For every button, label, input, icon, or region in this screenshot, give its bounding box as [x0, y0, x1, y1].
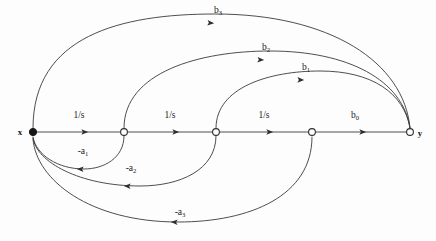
arc-label-arc-a3: -a3	[175, 207, 186, 218]
node-label-y: y	[418, 128, 423, 138]
arrowhead-arc-b1	[297, 77, 304, 83]
node-y	[407, 129, 414, 136]
flow-graph-canvas: 1/s1/s1/sb0b3b2b1-a1-a2-a3xy	[0, 0, 436, 241]
edge-label-e-n3-n4: 1/s	[258, 110, 269, 120]
arc-label-arc-b3: b3	[214, 5, 223, 16]
node-n4	[309, 129, 316, 136]
arc-label-arc-a1: -a1	[78, 146, 89, 157]
forward-edge-group	[33, 129, 410, 135]
feedback-arc-arc-a2	[33, 136, 216, 186]
node-n3	[213, 129, 220, 136]
arc-label-arc-b2: b2	[262, 42, 270, 53]
arc-label-arc-b1: b1	[302, 62, 310, 73]
node-n2	[121, 129, 128, 136]
edge-label-e-n2-n3: 1/s	[164, 110, 175, 120]
node-x	[29, 128, 36, 135]
edge-label-e-n4-y: b0	[351, 110, 360, 121]
arrowhead-arc-b2	[257, 57, 264, 63]
node-label-x: x	[18, 127, 23, 137]
feedback-arc-group	[33, 136, 312, 225]
label-group: 1/s1/s1/sb0b3b2b1-a1-a2-a3xy	[18, 5, 423, 218]
edge-label-e-x-n2: 1/s	[73, 110, 84, 120]
arc-label-arc-a2: -a2	[126, 163, 137, 174]
feedforward-arc-arc-b1	[216, 71, 410, 128]
feedback-arc-arc-a3	[33, 137, 312, 222]
arrowhead-arc-b3	[207, 20, 214, 26]
signal-flow-graph-figure: 1/s1/s1/sb0b3b2b1-a1-a2-a3xy	[0, 0, 436, 241]
